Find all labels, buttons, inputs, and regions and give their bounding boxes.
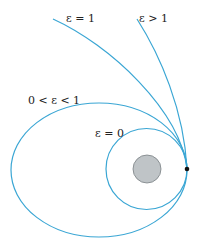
planet <box>133 155 161 183</box>
label-ellipse: 0 < ε < 1 <box>28 95 80 106</box>
periapsis-point <box>185 167 190 172</box>
orbit-diagram <box>0 0 202 249</box>
label-parabola: ε = 1 <box>66 13 95 24</box>
label-hyperbola: ε > 1 <box>139 13 168 24</box>
label-circle: ε = 0 <box>95 128 124 139</box>
